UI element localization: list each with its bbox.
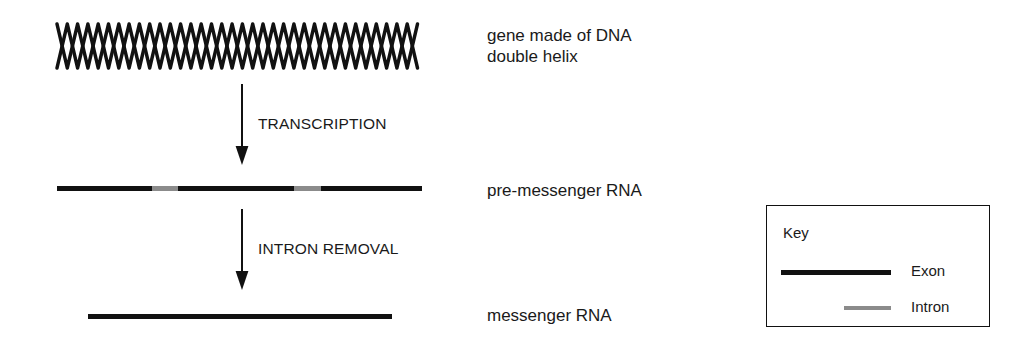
intron-removal-label: INTRON REMOVAL [258,240,398,258]
key-row-exon: Exon [767,262,989,282]
pre-mrna-strand [57,186,422,191]
mrna-row-label: messenger RNA [487,305,612,326]
strand-segment-exon [178,186,294,191]
down-arrow-icon-intron-removal [232,209,252,291]
key-row-intron: Intron [767,298,989,318]
pre-mrna-row-label: pre-messenger RNA [487,180,642,201]
dna-row-label: gene made of DNA double helix [487,25,632,67]
key-legend-box: Key Exon Intron [766,205,990,327]
intron-line-swatch [844,306,891,310]
dna-double-helix-icon [55,20,423,72]
strand-segment-exon [321,186,422,191]
key-label-exon: Exon [911,262,945,279]
exon-line-swatch [781,270,891,275]
key-title: Key [783,224,809,241]
strand-segment-exon [88,314,392,319]
down-arrow-icon-transcription [232,84,252,166]
mrna-strand [88,314,392,319]
strand-segment-intron [294,186,321,191]
diagram-canvas: gene made of DNA double helix TRANSCRIPT… [0,0,1017,356]
strand-segment-intron [152,186,178,191]
key-label-intron: Intron [911,298,949,315]
transcription-label: TRANSCRIPTION [258,115,387,133]
strand-segment-exon [57,186,152,191]
